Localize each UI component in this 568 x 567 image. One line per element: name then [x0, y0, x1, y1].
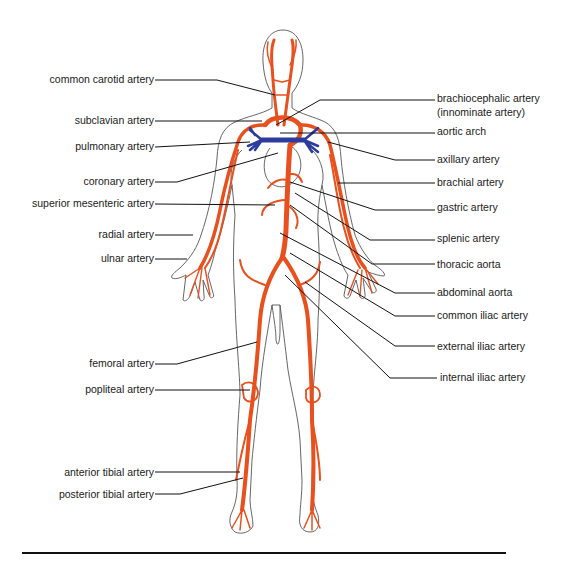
label-abdominal-aorta: abdominal aorta — [437, 286, 512, 299]
body-outline — [172, 30, 385, 533]
pulmonary-vessels — [248, 128, 318, 152]
label-brachial-artery: brachial artery — [437, 176, 504, 189]
label-common-iliac-artery: common iliac artery — [437, 309, 528, 322]
label-anterior-tibial-artery: anterior tibial artery — [64, 466, 154, 479]
label-superior-mesenteric-artery: superior mesenteric artery — [32, 197, 154, 210]
label-external-iliac-artery: external iliac artery — [437, 340, 525, 353]
bottom-rule — [22, 552, 506, 554]
label-internal-iliac-artery: internal iliac artery — [440, 371, 525, 384]
label-innominate-artery: (innominate artery) — [437, 106, 525, 119]
label-brachiocephalic-artery: brachiocephalic artery — [437, 92, 540, 105]
label-radial-artery: radial artery — [99, 228, 154, 241]
label-popliteal-artery: popliteal artery — [85, 383, 154, 396]
label-coronary-artery: coronary artery — [83, 175, 154, 188]
label-gastric-artery: gastric artery — [437, 201, 498, 214]
label-ulnar-artery: ulnar artery — [101, 252, 154, 265]
label-splenic-artery: splenic artery — [437, 232, 499, 245]
label-posterior-tibial-artery: posterior tibial artery — [59, 488, 154, 501]
label-thoracic-aorta: thoracic aorta — [437, 258, 501, 271]
label-femoral-artery: femoral artery — [89, 357, 154, 370]
label-subclavian-artery: subclavian artery — [75, 114, 154, 127]
label-aortic-arch: aortic arch — [437, 125, 486, 138]
arteries — [185, 40, 378, 530]
label-axillary-artery: axillary artery — [437, 153, 499, 166]
label-pulmonary-artery: pulmonary artery — [75, 140, 154, 153]
label-common-carotid-artery: common carotid artery — [50, 73, 154, 86]
